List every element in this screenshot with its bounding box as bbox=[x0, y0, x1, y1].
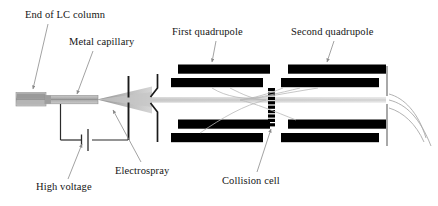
q2-rod-upper-front bbox=[281, 78, 379, 87]
q2-rod-lower-front bbox=[281, 133, 379, 142]
q1-rod-lower-front bbox=[171, 133, 263, 142]
second-quadrupole bbox=[281, 65, 386, 143]
high-voltage-circuit bbox=[61, 104, 129, 151]
figure-canvas: End of LC column Metal capillary First q… bbox=[0, 0, 438, 206]
leader-second-quadrupole bbox=[327, 41, 334, 62]
end-of-lc-column bbox=[16, 93, 46, 107]
label-end-of-lc-column: End of LC column bbox=[25, 9, 105, 20]
leader-high-voltage bbox=[68, 144, 82, 179]
q2-rod-upper-back bbox=[288, 65, 386, 74]
detector-ion-paths bbox=[389, 94, 431, 146]
q2-rod-lower-back bbox=[288, 120, 386, 129]
label-metal-capillary: Metal capillary bbox=[69, 36, 134, 47]
electrospray-cone bbox=[97, 87, 152, 114]
label-second-quadrupole: Second quadrupole bbox=[291, 26, 373, 37]
leader-lc-column bbox=[33, 24, 48, 89]
label-collision-cell: Collision cell bbox=[222, 175, 280, 186]
metal-capillary bbox=[45, 95, 98, 103]
q1-rod-upper-back bbox=[178, 65, 270, 74]
label-electrospray: Electrospray bbox=[115, 165, 169, 176]
label-high-voltage: High voltage bbox=[36, 181, 92, 192]
q1-rod-upper-front bbox=[171, 78, 263, 87]
q1-rod-lower-back bbox=[178, 120, 270, 129]
leader-first-quadrupole bbox=[212, 41, 216, 62]
leader-electrospray bbox=[113, 110, 141, 162]
leader-metal-capillary bbox=[77, 51, 93, 94]
label-first-quadrupole: First quadrupole bbox=[172, 26, 243, 37]
